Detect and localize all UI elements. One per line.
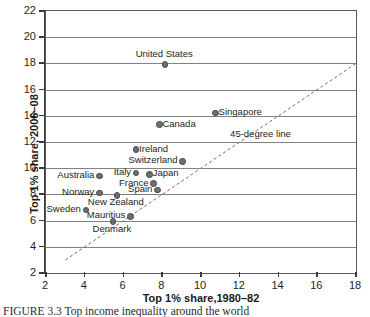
x-tick-label-16: 16: [304, 279, 328, 291]
y-tick-label-20: 20: [10, 30, 36, 42]
x-tick-label-14: 14: [266, 279, 290, 291]
data-point[interactable]: [154, 187, 161, 194]
x-tick-label-6: 6: [111, 279, 135, 291]
y-tick-label-2: 2: [10, 266, 36, 278]
y-tick-mark-6: [39, 220, 44, 222]
y-tick-label-4: 4: [10, 240, 36, 252]
x-tick-mark-16: [316, 272, 318, 277]
y-tick-label-8: 8: [10, 187, 36, 199]
plot-inner: United StatesSingaporeCanadaIrelandSwitz…: [46, 11, 356, 273]
x-tick-label-18: 18: [343, 279, 367, 291]
plot-area: United StatesSingaporeCanadaIrelandSwitz…: [45, 10, 357, 274]
y-tick-mark-8: [39, 193, 44, 195]
y-tick-label-16: 16: [10, 83, 36, 95]
data-point-label: New Zealand: [88, 197, 144, 207]
data-point-label: Italy: [114, 167, 131, 177]
data-point[interactable]: [96, 173, 103, 180]
data-point-label: Sweden: [46, 204, 80, 214]
x-tick-label-10: 10: [188, 279, 212, 291]
x-tick-label-12: 12: [227, 279, 251, 291]
y-tick-label-18: 18: [10, 56, 36, 68]
data-point-label: Norway: [62, 187, 94, 197]
data-point[interactable]: [179, 158, 186, 165]
x-tick-label-8: 8: [149, 279, 173, 291]
x-tick-mark-14: [278, 272, 280, 277]
data-point-label: Switzerland: [128, 155, 177, 165]
gridline-y-12: [46, 142, 356, 143]
x-tick-mark-18: [355, 272, 357, 277]
x-tick-mark-10: [200, 272, 202, 277]
y-tick-mark-10: [39, 167, 44, 169]
data-point[interactable]: [127, 213, 134, 220]
figure-number: FIGURE 3.3: [3, 305, 62, 317]
y-tick-label-6: 6: [10, 214, 36, 226]
data-point-label: Canada: [162, 119, 195, 129]
data-point[interactable]: [96, 190, 103, 197]
y-tick-label-14: 14: [10, 109, 36, 121]
y-tick-mark-4: [39, 246, 44, 248]
y-tick-mark-20: [39, 36, 44, 38]
x-tick-label-4: 4: [72, 279, 96, 291]
y-tick-label-10: 10: [10, 161, 36, 173]
x-tick-mark-8: [161, 272, 163, 277]
y-tick-mark-18: [39, 62, 44, 64]
y-tick-mark-2: [39, 272, 44, 274]
y-tick-mark-12: [39, 141, 44, 143]
gridline-y-20: [46, 37, 356, 38]
y-tick-label-22: 22: [10, 4, 36, 16]
gridline-y-16: [46, 90, 356, 91]
data-point-label: Australia: [57, 170, 94, 180]
figure-caption-text: Top income inequality around the world: [64, 305, 249, 317]
x-axis-title: Top 1% share,1980–82: [45, 292, 357, 304]
y-tick-label-12: 12: [10, 135, 36, 147]
data-point-label: Ireland: [139, 144, 168, 154]
y-tick-mark-16: [39, 89, 44, 91]
x-tick-mark-12: [239, 272, 241, 277]
x-tick-mark-2: [45, 272, 47, 277]
data-point-label: Spain: [128, 184, 152, 194]
gridline-y-18: [46, 63, 356, 64]
gridline-y-14: [46, 116, 356, 117]
data-point-label: United States: [136, 49, 193, 59]
forty-five-degree-line-label: 45-degree line: [230, 128, 291, 139]
data-point-label: Mauritius: [87, 210, 126, 220]
data-point[interactable]: [162, 61, 169, 68]
x-tick-label-2: 2: [33, 279, 57, 291]
data-point-label: Denmark: [93, 224, 132, 234]
x-tick-mark-6: [123, 272, 125, 277]
gridline-y-4: [46, 247, 356, 248]
data-point-label: Japan: [153, 168, 179, 178]
figure-caption: FIGURE 3.3 Top income inequality around …: [3, 305, 249, 317]
y-tick-mark-22: [39, 10, 44, 12]
data-point-label: Singapore: [219, 107, 262, 117]
x-tick-mark-4: [84, 272, 86, 277]
y-tick-mark-14: [39, 115, 44, 117]
gridline-y-6: [46, 221, 356, 222]
